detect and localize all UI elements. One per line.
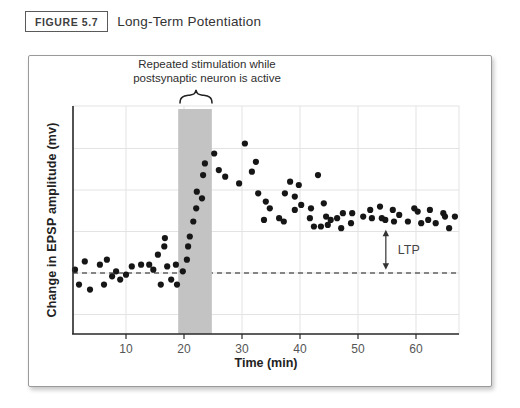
x-tick-label: 60	[409, 342, 423, 356]
scatter-point	[261, 217, 267, 223]
scatter-point	[200, 172, 206, 178]
scatter-point	[162, 235, 168, 241]
scatter-point	[425, 217, 431, 223]
scatter-point	[199, 195, 205, 201]
scatter-point	[287, 179, 293, 185]
scatter-point	[349, 210, 355, 216]
scatter-point	[311, 223, 317, 229]
scatter-point	[315, 172, 321, 178]
scatter-point	[433, 220, 439, 226]
scatter-point	[161, 243, 167, 249]
scatter-point	[187, 233, 193, 239]
scatter-point	[318, 223, 324, 229]
scatter-point	[117, 277, 123, 283]
scatter-point	[405, 218, 411, 224]
scatter-point	[390, 207, 396, 213]
scatter-point	[82, 258, 88, 264]
scatter-point	[113, 268, 119, 274]
scatter-point	[328, 217, 334, 223]
scatter-point	[150, 267, 156, 273]
scatter-point	[184, 257, 190, 263]
scatter-point	[267, 205, 273, 211]
scatter-point	[249, 169, 255, 175]
scatter-point	[138, 262, 144, 268]
scatter-point	[442, 214, 448, 220]
scatter-point	[87, 287, 93, 293]
scatter-point	[158, 282, 164, 288]
scatter-point	[173, 262, 179, 268]
scatter-point	[292, 207, 298, 213]
scatter-point	[382, 217, 388, 223]
scatter-point	[446, 225, 452, 231]
scatter-point	[292, 194, 298, 200]
scatter-point	[216, 167, 222, 173]
stimulation-annotation-line1: Repeated stimulation while	[87, 58, 327, 72]
scatter-point	[377, 204, 383, 210]
scatter-point	[321, 200, 327, 206]
scatter-point	[193, 205, 199, 211]
scatter-point	[340, 210, 346, 216]
scatter-point	[190, 218, 196, 224]
ltp-label: LTP	[398, 243, 420, 257]
scatter-point	[263, 199, 269, 205]
x-tick-label: 30	[235, 342, 249, 356]
scatter-point	[348, 220, 354, 226]
scatter-point	[123, 272, 129, 278]
page: FIGURE 5.7 Long-Term Potentiation Repeat…	[0, 0, 520, 408]
scatter-point	[255, 190, 261, 196]
scatter-point	[164, 263, 170, 269]
scatter-point	[236, 180, 242, 186]
scatter-point	[338, 225, 344, 231]
scatter-point	[76, 282, 82, 288]
scatter-point	[211, 150, 217, 156]
scatter-point	[418, 220, 424, 226]
scatter-point	[194, 189, 200, 195]
scatter-point	[298, 202, 304, 208]
scatter-point	[415, 209, 421, 215]
x-axis-label: Time (min)	[53, 356, 479, 370]
figure-card: Repeated stimulation while postsynaptic …	[28, 55, 492, 387]
figure-number-label: FIGURE 5.7	[25, 11, 108, 32]
scatter-point	[101, 282, 107, 288]
scatter-point	[281, 218, 287, 224]
scatter-point	[396, 212, 402, 218]
scatter-point	[129, 263, 135, 269]
x-tick-label: 10	[119, 342, 133, 356]
scatter-point	[296, 182, 302, 188]
x-tick-label: 20	[177, 342, 191, 356]
scatter-point	[367, 207, 373, 213]
x-tick-label: 50	[351, 342, 365, 356]
scatter-point	[185, 243, 191, 249]
scatter-point	[104, 257, 110, 263]
scatter-point	[97, 262, 103, 268]
stimulation-annotation: Repeated stimulation while postsynaptic …	[87, 58, 327, 85]
scatter-point	[369, 215, 375, 221]
scatter-point	[308, 205, 314, 211]
scatter-point	[391, 218, 397, 224]
scatter-point	[253, 159, 259, 165]
scatter-point	[427, 207, 433, 213]
y-axis-label: Change in EPSP amplitude (mv)	[45, 120, 61, 320]
ltp-chart: 102030405060LTP	[53, 96, 493, 358]
figure-title: Long-Term Potentiation	[117, 14, 261, 29]
scatter-point	[222, 174, 228, 180]
scatter-point	[174, 282, 180, 288]
stimulation-annotation-line2: postsynaptic neuron is active	[87, 72, 327, 86]
scatter-point	[155, 252, 161, 258]
scatter-point	[180, 268, 186, 274]
scatter-point	[282, 190, 288, 196]
scatter-point	[168, 277, 174, 283]
scatter-point	[307, 215, 313, 221]
scatter-point	[202, 160, 208, 166]
scatter-point	[242, 140, 248, 146]
scatter-point	[360, 214, 366, 220]
scatter-point	[452, 214, 458, 220]
scatter-point	[146, 262, 152, 268]
scatter-point	[109, 273, 115, 279]
figure-header: FIGURE 5.7 Long-Term Potentiation	[25, 8, 261, 34]
x-tick-label: 40	[293, 342, 307, 356]
scatter-point	[334, 215, 340, 221]
